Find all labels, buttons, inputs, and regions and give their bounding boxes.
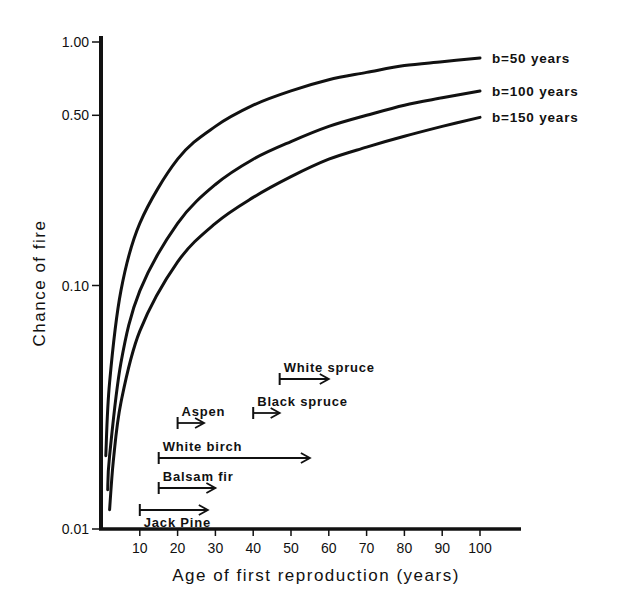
species-label: Aspen: [182, 404, 226, 419]
series-label-150: b=150 years: [492, 110, 579, 125]
x-tick-label: 60: [321, 540, 337, 556]
species-arrow-jack-pine: Jack Pine: [140, 504, 211, 530]
series-labels: b=50 yearsb=100 yearsb=150 years: [492, 51, 579, 125]
species-arrow-white-spruce: White spruce: [280, 360, 375, 385]
x-tick-label: 80: [397, 540, 413, 556]
x-tick-label: 10: [132, 540, 148, 556]
y-tick-label: 0.50: [62, 107, 89, 123]
y-tick-label: 0.01: [62, 521, 89, 537]
y-axis-label: Chance of fire: [30, 220, 49, 347]
species-arrow-balsam-fir: Balsam fir: [159, 469, 234, 494]
x-tick-label: 90: [434, 540, 450, 556]
species-label: White spruce: [284, 360, 375, 375]
species-label: White birch: [163, 439, 243, 454]
y-ticks: 0.010.100.501.00: [62, 34, 101, 537]
x-tick-label: 50: [283, 540, 299, 556]
x-tick-label: 40: [245, 540, 261, 556]
species-label: Balsam fir: [163, 469, 234, 484]
species-label: Jack Pine: [144, 515, 211, 530]
fire-chance-chart: 0.010.100.501.00 102030405060708090100 b…: [0, 0, 617, 606]
species-arrow-white-birch: White birch: [159, 439, 310, 464]
x-tick-label: 70: [359, 540, 375, 556]
y-tick-label: 0.10: [62, 278, 89, 294]
x-ticks: 102030405060708090100: [132, 529, 492, 556]
curve-100-years: [108, 91, 480, 490]
species-arrow-black-spruce: Black spruce: [253, 394, 348, 419]
x-tick-label: 20: [170, 540, 186, 556]
y-tick-label: 1.00: [62, 34, 89, 50]
species-label: Black spruce: [257, 394, 348, 409]
x-tick-label: 30: [208, 540, 224, 556]
species-arrow-aspen: Aspen: [178, 404, 226, 429]
series-label-100: b=100 years: [492, 84, 579, 99]
series-label-50: b=50 years: [492, 51, 570, 66]
x-axis-label: Age of first reproduction (years): [172, 566, 460, 585]
species-arrows: Jack PineBalsam firWhite birchAspenBlack…: [140, 360, 375, 530]
x-tick-label: 100: [468, 540, 492, 556]
